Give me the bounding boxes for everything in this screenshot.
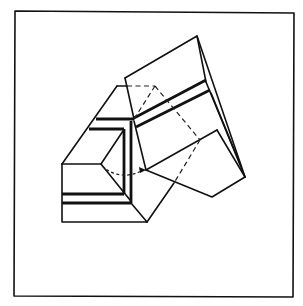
right-block: [125, 36, 245, 197]
frame-border: [14, 11, 294, 297]
diagram-canvas: [0, 0, 303, 306]
